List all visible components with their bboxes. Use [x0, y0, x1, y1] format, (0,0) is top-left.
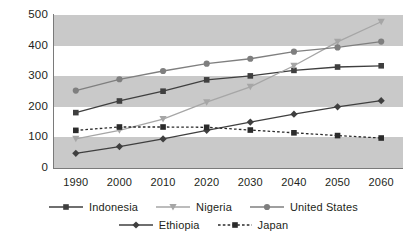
data-point-marker: [334, 44, 340, 50]
data-point-marker: [247, 56, 253, 62]
data-point-marker: [232, 222, 238, 228]
legend-label: Nigeria: [196, 201, 232, 213]
legend-item-ethiopia[interactable]: Ethiopia: [119, 219, 200, 231]
legend-item-japan[interactable]: Japan: [218, 219, 289, 231]
legend-swatch: [49, 201, 83, 213]
data-point-marker: [73, 128, 79, 134]
x-axis-tick-label: 2050: [325, 176, 350, 188]
data-point-marker: [160, 68, 166, 74]
data-point-marker: [160, 88, 166, 94]
data-point-marker: [248, 73, 254, 79]
data-point-marker: [290, 111, 297, 118]
y-axis-tick-label: 500: [4, 8, 48, 20]
legend-row: IndonesiaNigeriaUnited States: [0, 198, 407, 216]
legend-label: Ethiopia: [159, 219, 200, 231]
data-point-marker: [247, 119, 254, 126]
data-point-marker: [334, 103, 341, 110]
legend-marker-icon: [250, 201, 284, 213]
data-point-marker: [73, 110, 79, 116]
chart-figure: 0100200300400500 19902000201020202030204…: [0, 0, 407, 242]
data-point-marker: [248, 127, 254, 133]
data-point-marker: [291, 49, 297, 55]
data-point-marker: [378, 97, 385, 104]
data-point-marker: [72, 136, 79, 142]
data-point-marker: [117, 124, 123, 130]
legend-marker-icon: [156, 201, 190, 213]
legend-swatch: [156, 201, 190, 213]
data-point-marker: [73, 87, 79, 93]
y-axis-tick-label: 100: [4, 130, 48, 142]
x-axis-tick-label: 1990: [63, 176, 88, 188]
data-point-marker: [72, 150, 79, 157]
data-point-marker: [116, 76, 122, 82]
legend-item-indonesia[interactable]: Indonesia: [49, 201, 138, 213]
data-point-marker: [63, 204, 69, 210]
series-lines: [54, 15, 403, 168]
data-point-marker: [335, 133, 341, 139]
legend-swatch: [250, 201, 284, 213]
y-axis-tick-label: 200: [4, 100, 48, 112]
x-axis-line: [53, 168, 403, 169]
data-point-marker: [335, 64, 341, 70]
data-point-marker: [378, 19, 385, 25]
data-point-marker: [204, 125, 210, 131]
legend-label: United States: [290, 201, 358, 213]
legend-row: EthiopiaJapan: [0, 216, 407, 234]
x-axis-tick-label: 2020: [194, 176, 219, 188]
legend-swatch: [119, 219, 153, 231]
data-point-marker: [291, 130, 297, 136]
data-point-marker: [116, 143, 123, 150]
x-axis-tick-labels: 19902000201020202030204020502060: [54, 176, 403, 192]
data-point-marker: [132, 221, 139, 228]
data-point-marker: [159, 135, 166, 142]
data-point-marker: [203, 99, 210, 105]
legend-item-nigeria[interactable]: Nigeria: [156, 201, 232, 213]
data-point-marker: [117, 98, 123, 104]
x-axis-tick-label: 2030: [238, 176, 263, 188]
legend-label: Indonesia: [89, 201, 138, 213]
data-point-marker: [378, 39, 384, 45]
y-axis-tick-label: 400: [4, 39, 48, 51]
data-point-marker: [378, 135, 384, 141]
legend-marker-icon: [119, 219, 153, 231]
legend-item-united-states[interactable]: United States: [250, 201, 358, 213]
x-axis-tick-label: 2060: [369, 176, 394, 188]
data-point-marker: [247, 84, 254, 90]
x-axis-tick-label: 2040: [281, 176, 306, 188]
data-point-marker: [264, 204, 270, 210]
legend-label: Japan: [258, 219, 289, 231]
y-axis-tick-label: 300: [4, 69, 48, 81]
data-point-marker: [204, 61, 210, 67]
data-point-marker: [378, 63, 384, 69]
y-axis-tick-label: 0: [4, 161, 48, 173]
y-axis-line: [53, 14, 54, 169]
chart-legend: IndonesiaNigeriaUnited StatesEthiopiaJap…: [0, 198, 407, 242]
legend-swatch: [218, 219, 252, 231]
x-axis-tick-label: 2000: [107, 176, 132, 188]
data-point-marker: [160, 124, 166, 130]
legend-marker-icon: [49, 201, 83, 213]
legend-marker-icon: [218, 219, 252, 231]
plot-area: [54, 15, 403, 168]
x-axis-tick-label: 2010: [150, 176, 175, 188]
data-point-marker: [204, 77, 210, 83]
